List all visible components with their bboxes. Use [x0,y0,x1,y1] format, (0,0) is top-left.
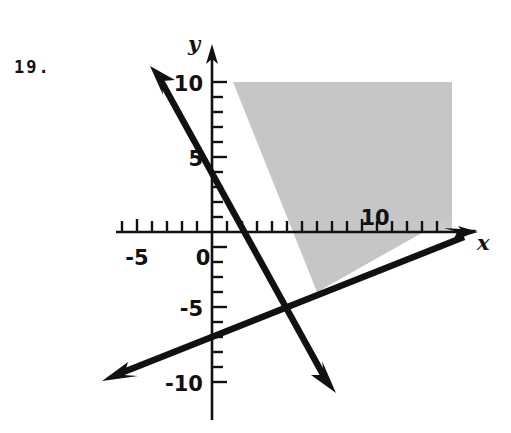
x-tick-label-0: 0 [196,246,211,270]
graph-figure: 19. [0,0,511,433]
y-tick-label-neg10: -10 [165,372,203,396]
x-tick-label-10: 10 [360,206,389,230]
y-tick-label-5: 5 [188,147,203,171]
x-axis-label: x [476,230,490,255]
coordinate-plane: y x 10 5 -5 -10 -5 0 10 [0,0,511,433]
y-axis-label: y [187,31,202,56]
x-tick-label-neg5: -5 [125,246,148,270]
y-tick-label-neg5: -5 [180,297,203,321]
y-tick-label-10: 10 [174,72,203,96]
